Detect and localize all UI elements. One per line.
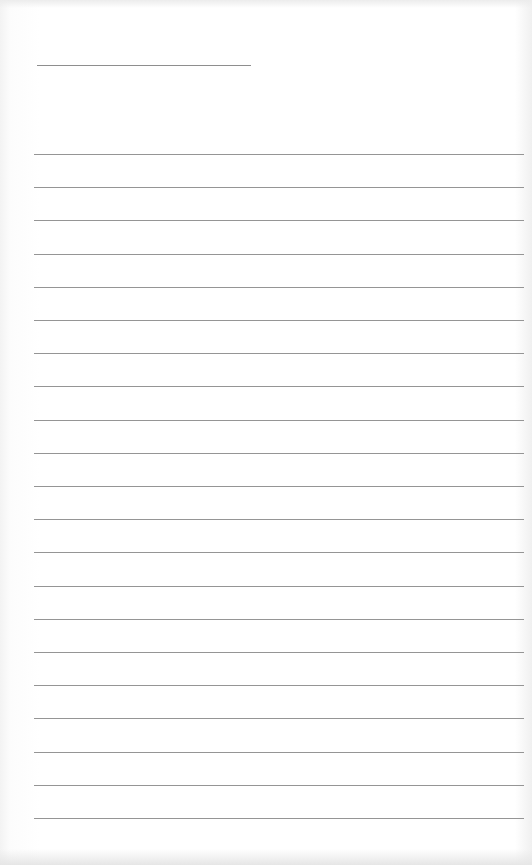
lined-paper-page bbox=[0, 0, 532, 865]
ruled-line bbox=[34, 187, 524, 188]
ruled-line bbox=[34, 486, 524, 487]
ruled-line bbox=[34, 552, 524, 553]
ruled-line bbox=[34, 287, 524, 288]
ruled-line bbox=[34, 353, 524, 354]
ruled-line bbox=[34, 586, 524, 587]
ruled-line bbox=[34, 220, 524, 221]
ruled-line bbox=[34, 818, 524, 819]
page-bottom-shadow bbox=[0, 849, 532, 865]
ruled-line bbox=[34, 785, 524, 786]
ruled-line bbox=[34, 519, 524, 520]
ruled-line bbox=[34, 718, 524, 719]
ruled-line bbox=[34, 320, 524, 321]
ruled-line bbox=[34, 386, 524, 387]
header-name-line bbox=[37, 65, 251, 66]
page-top-shadow bbox=[0, 0, 532, 8]
ruled-line bbox=[34, 254, 524, 255]
ruled-line bbox=[34, 685, 524, 686]
ruled-line bbox=[34, 453, 524, 454]
ruled-line bbox=[34, 752, 524, 753]
ruled-line bbox=[34, 619, 524, 620]
ruled-line bbox=[34, 652, 524, 653]
ruled-line bbox=[34, 154, 524, 155]
ruled-line bbox=[34, 420, 524, 421]
